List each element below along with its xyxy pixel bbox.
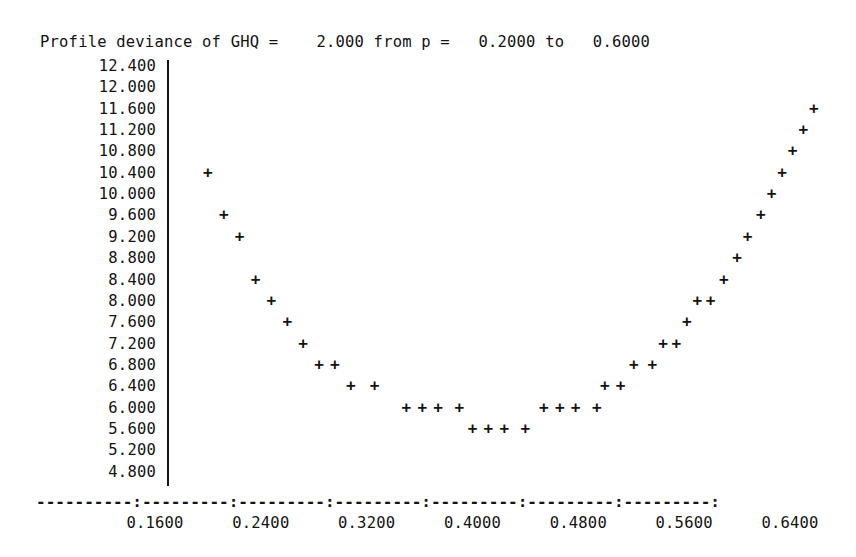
data-point: + (668, 336, 684, 352)
data-point: + (753, 207, 769, 223)
data-point: + (216, 207, 232, 223)
data-point: + (295, 336, 311, 352)
data-point: + (679, 314, 695, 330)
data-point: + (480, 421, 496, 437)
data-point: + (703, 293, 719, 309)
data-point: + (716, 272, 732, 288)
data-point: + (597, 378, 613, 394)
x-tick-label: 0.1600 (100, 513, 210, 533)
data-point: + (806, 101, 822, 117)
data-point: + (451, 400, 467, 416)
data-point: + (263, 293, 279, 309)
data-point: + (327, 357, 343, 373)
data-point: + (398, 400, 414, 416)
data-point: + (248, 272, 264, 288)
data-point: + (367, 378, 383, 394)
data-point: + (613, 378, 629, 394)
data-point: + (279, 314, 295, 330)
data-point: + (552, 400, 568, 416)
x-tick-label: 0.2400 (206, 513, 316, 533)
data-point: + (729, 250, 745, 266)
data-point: + (644, 357, 660, 373)
data-point: + (795, 122, 811, 138)
x-axis: 0.16000.24000.32000.40000.48000.56000.64… (0, 513, 856, 537)
data-point: + (311, 357, 327, 373)
x-axis-line: ----------:---------:---------:---------… (36, 494, 720, 510)
plot-area: ++++++++++++++++++++++++++++++++++++++++… (0, 0, 856, 557)
data-point: + (763, 186, 779, 202)
data-point: + (232, 229, 248, 245)
data-point: + (740, 229, 756, 245)
data-point: + (517, 421, 533, 437)
data-point: + (343, 378, 359, 394)
data-point: + (496, 421, 512, 437)
profile-deviance-plot: Profile deviance of GHQ = 2.000 from p =… (0, 0, 856, 557)
data-point: + (785, 143, 801, 159)
data-point: + (774, 165, 790, 181)
data-point: + (200, 165, 216, 181)
data-point: + (414, 400, 430, 416)
data-point: + (430, 400, 446, 416)
data-point: + (536, 400, 552, 416)
x-tick-label: 0.5600 (629, 513, 739, 533)
data-point: + (589, 400, 605, 416)
x-tick-label: 0.3200 (312, 513, 422, 533)
x-tick-label: 0.4000 (418, 513, 528, 533)
x-tick-label: 0.4800 (523, 513, 633, 533)
data-point: + (465, 421, 481, 437)
data-point: + (568, 400, 584, 416)
x-tick-label: 0.6400 (735, 513, 845, 533)
data-point: + (626, 357, 642, 373)
